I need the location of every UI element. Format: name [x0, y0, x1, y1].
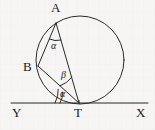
chord-bt [38, 66, 79, 103]
label-angle-alpha-at-t: α [60, 89, 65, 99]
geometry-figure: A B T Y X α β α [0, 0, 155, 130]
label-angle-beta-at-t: β [61, 70, 66, 80]
label-point-b: B [23, 60, 32, 73]
label-point-a: A [51, 1, 60, 14]
label-angle-alpha-at-a: α [51, 41, 56, 51]
circle-shape [36, 16, 124, 104]
label-point-t: T [74, 106, 82, 119]
label-line-end-y: Y [12, 106, 21, 119]
label-line-end-x: X [136, 106, 145, 119]
